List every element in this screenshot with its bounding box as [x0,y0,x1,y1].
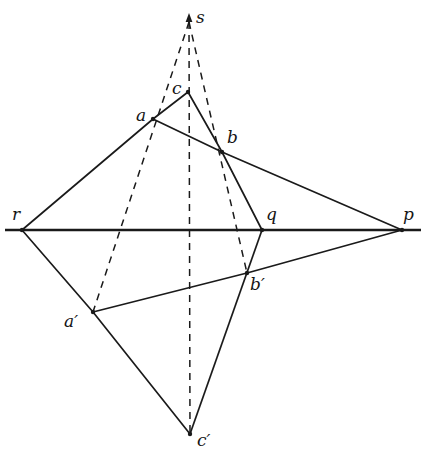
point-label-s: s [196,9,205,26]
vertex-dot-r [20,228,24,232]
edge-r-ap [22,230,93,312]
point-label-c-prime: c′ [197,432,210,449]
point-label-b-prime: b′ [250,276,265,293]
vertex-dot-a [151,117,155,121]
edge-ap-bp [93,273,247,312]
apex-arrowhead [186,13,193,22]
solid-edges-group [22,92,402,434]
dashed-rays-group [93,22,247,434]
edge-bp-p [247,230,402,273]
apex-arrowhead [186,13,193,22]
vertex-dot-cp [188,432,192,436]
vertex-dot-b [220,150,224,154]
point-label-c: c [172,80,182,97]
edge-b-p [222,152,402,230]
ray-s-c-cp [189,22,190,434]
vertex-dot-ap [91,310,95,314]
edge-a-b [153,119,222,152]
point-label-a: a [136,107,146,124]
edge-ap-cp [93,312,190,434]
point-label-p: p [403,206,414,223]
vertex-dot-c [186,90,190,94]
figure-canvas [0,0,426,461]
ray-s-b-bp [189,22,247,273]
vertex-dot-q [260,228,264,232]
edge-q-cp [190,230,262,434]
point-label-r: r [12,206,20,223]
vertex-dots-group [20,90,404,436]
vertex-dot-p [400,228,404,232]
edge-r-a [22,119,153,230]
vertex-dot-bp [245,271,249,275]
ray-s-a-ap [93,22,189,312]
desargues-figure: s a b c a′ b′ c′ p q r [0,0,426,461]
point-label-q: q [266,206,277,223]
point-label-a-prime: a′ [64,313,78,330]
point-label-b: b [227,129,238,146]
